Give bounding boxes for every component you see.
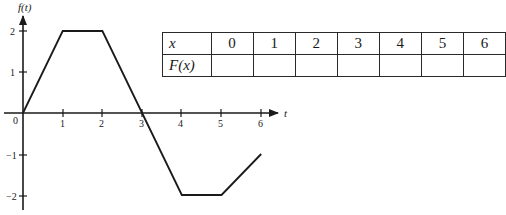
x-tick-label: 3 [139, 118, 144, 129]
table-cell-empty[interactable] [211, 55, 253, 77]
table-cell-empty[interactable] [379, 55, 421, 77]
table-cell-empty[interactable] [253, 55, 295, 77]
x-axis-label: t [284, 107, 288, 119]
x-tick-label: 6 [258, 118, 263, 129]
table-cell: 5 [421, 33, 463, 55]
table-cell-empty[interactable] [295, 55, 337, 77]
row-header-x: x [163, 33, 212, 55]
table-cell: 3 [337, 33, 379, 55]
table-cell: 4 [379, 33, 421, 55]
y-tick-label: 1 [10, 67, 15, 78]
table-row-Fx: F(x) [163, 55, 506, 77]
x-tick-label: 1 [60, 118, 65, 129]
values-table: x 0 1 2 3 4 5 6 F(x) [162, 32, 506, 77]
y-tick-label: 2 [10, 26, 15, 37]
table-cell-empty[interactable] [463, 55, 505, 77]
x-tick-label: 2 [99, 118, 104, 129]
table-cell: 6 [463, 33, 505, 55]
y-tick-label: −2 [6, 191, 17, 202]
table-cell-empty[interactable] [337, 55, 379, 77]
x-tick-label: 5 [218, 118, 223, 129]
table-cell: 1 [253, 33, 295, 55]
x-tick-label: 4 [178, 118, 183, 129]
y-tick-label: −1 [6, 150, 17, 161]
y-axis-label: f(t) [18, 1, 32, 14]
row-header-Fx: F(x) [163, 55, 212, 77]
table-cell: 2 [295, 33, 337, 55]
table-cell-empty[interactable] [421, 55, 463, 77]
table-cell: 0 [211, 33, 253, 55]
table-row-x: x 0 1 2 3 4 5 6 [163, 33, 506, 55]
origin-label: 0 [13, 115, 18, 126]
